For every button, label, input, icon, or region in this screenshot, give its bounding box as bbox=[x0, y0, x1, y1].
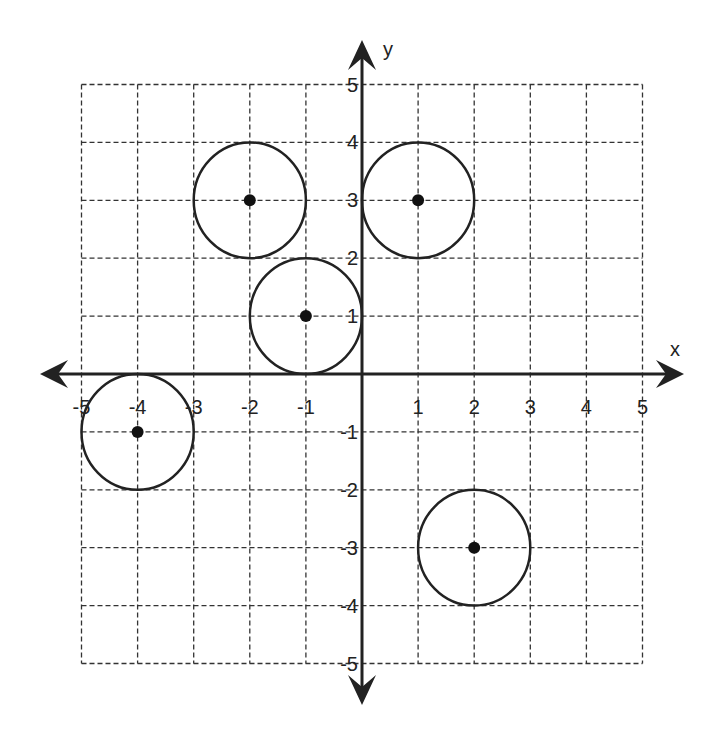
x-tick-label: 4 bbox=[581, 396, 592, 418]
center-point bbox=[132, 426, 144, 438]
center-point bbox=[300, 310, 312, 322]
x-tick-label: 5 bbox=[637, 396, 648, 418]
x-tick-label: 1 bbox=[413, 396, 424, 418]
y-tick-label: 4 bbox=[347, 131, 358, 153]
x-tick-label: 3 bbox=[525, 396, 536, 418]
y-tick-label: 3 bbox=[347, 189, 358, 211]
y-tick-label: 2 bbox=[347, 247, 358, 269]
y-tick-label: -5 bbox=[340, 653, 358, 675]
y-tick-label: 1 bbox=[347, 305, 358, 327]
center-point bbox=[468, 542, 480, 554]
y-tick-label: -2 bbox=[340, 479, 358, 501]
x-tick-label: -2 bbox=[241, 396, 259, 418]
x-tick-label: -4 bbox=[129, 396, 147, 418]
x-tick-label: 2 bbox=[469, 396, 480, 418]
y-axis-label: y bbox=[383, 38, 393, 60]
x-tick-label: -1 bbox=[297, 396, 315, 418]
y-tick-label: -1 bbox=[340, 421, 358, 443]
y-tick-label: 5 bbox=[347, 74, 358, 96]
y-tick-label: -4 bbox=[340, 595, 358, 617]
center-point bbox=[244, 194, 256, 206]
coordinate-plane: x y -5-4-3-2-11234554321-1-2-3-4-5 bbox=[0, 0, 719, 741]
x-axis-label: x bbox=[670, 338, 680, 360]
center-point bbox=[412, 194, 424, 206]
y-tick-label: -3 bbox=[340, 537, 358, 559]
